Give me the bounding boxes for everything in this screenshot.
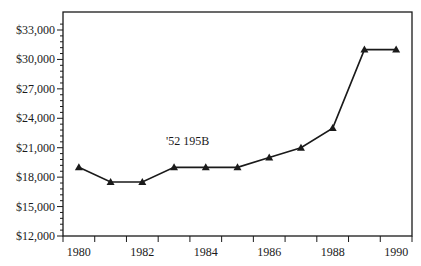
plot-frame xyxy=(63,12,412,236)
y-tick-label: $30,000 xyxy=(16,52,55,66)
x-tick-label: 1982 xyxy=(130,245,154,259)
series-annotation: '52 195B xyxy=(166,134,209,148)
y-tick-label: $15,000 xyxy=(16,200,55,214)
x-axis: 198019821984198619881990 xyxy=(63,236,412,259)
y-tick-label: $27,000 xyxy=(16,82,55,96)
x-tick-label: 1980 xyxy=(67,245,91,259)
y-tick-label: $33,000 xyxy=(16,23,55,37)
x-tick-label: 1984 xyxy=(194,245,218,259)
y-tick-label: $12,000 xyxy=(16,229,55,243)
y-tick-label: $21,000 xyxy=(16,141,55,155)
x-tick-label: 1988 xyxy=(321,245,345,259)
y-tick-label: $24,000 xyxy=(16,111,55,125)
x-tick-label: 1986 xyxy=(257,245,281,259)
y-axis: $12,000$15,000$18,000$21,000$24,000$27,0… xyxy=(16,23,63,243)
x-tick-label: 1990 xyxy=(384,245,408,259)
line-chart: $12,000$15,000$18,000$21,000$24,000$27,0… xyxy=(0,0,421,266)
y-tick-label: $18,000 xyxy=(16,170,55,184)
